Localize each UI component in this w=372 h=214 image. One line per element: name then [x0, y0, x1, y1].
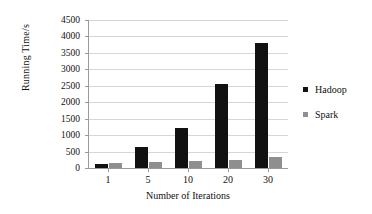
chart-figure: Running Time/s 0500100015002000250030003… [0, 0, 372, 214]
x-tick-mark [228, 169, 229, 172]
bar-hadoop-5 [135, 147, 148, 168]
bar-hadoop-30 [255, 43, 268, 168]
legend-item-hadoop[interactable]: Hadoop [303, 84, 347, 95]
bar-group [128, 20, 168, 168]
bar-spark-20 [229, 160, 242, 168]
x-tick-label: 10 [168, 174, 208, 185]
x-tick-mark [268, 169, 269, 172]
spark-swatch-icon [303, 112, 308, 117]
y-tick-label: 1500 [40, 114, 80, 124]
y-tick-label: 4500 [40, 15, 80, 25]
bar-spark-30 [269, 157, 282, 168]
y-tick-label: 0 [40, 163, 80, 173]
bar-group [208, 20, 248, 168]
legend-label: Hadoop [315, 84, 347, 95]
bar-group [248, 20, 288, 168]
bar-hadoop-1 [95, 164, 108, 168]
y-tick-label: 2000 [40, 97, 80, 107]
x-tick-label: 20 [208, 174, 248, 185]
bar-spark-1 [109, 163, 122, 168]
x-tick-label: 5 [128, 174, 168, 185]
bar-group [88, 20, 128, 168]
x-tick-label: 1 [88, 174, 128, 185]
bar-hadoop-10 [175, 128, 188, 168]
y-tick-label: 500 [40, 147, 80, 157]
legend-label: Spark [315, 109, 338, 120]
y-tick-label: 2500 [40, 81, 80, 91]
bar-hadoop-20 [215, 84, 228, 168]
plot-area [88, 20, 288, 169]
y-tick-label: 1000 [40, 130, 80, 140]
bar-group [168, 20, 208, 168]
bar-spark-10 [189, 161, 202, 168]
legend-item-spark[interactable]: Spark [303, 109, 347, 120]
y-tick-label: 3500 [40, 48, 80, 58]
y-tick-label: 3000 [40, 64, 80, 74]
hadoop-swatch-icon [303, 87, 308, 92]
x-tick-mark [148, 169, 149, 172]
y-axis-title: Running Time/s [20, 0, 31, 123]
x-tick-mark [188, 169, 189, 172]
bar-spark-5 [149, 162, 162, 168]
x-tick-label: 30 [248, 174, 288, 185]
y-tick-label: 4000 [40, 31, 80, 41]
x-axis-title: Number of Iterations [88, 190, 288, 201]
x-tick-mark [108, 169, 109, 172]
chart-legend: HadoopSpark [303, 84, 347, 120]
